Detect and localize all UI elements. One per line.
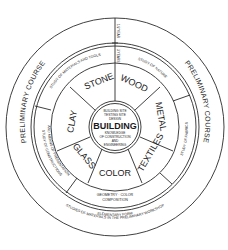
composition-label: COMPOSITION [102, 198, 128, 202]
material-wood: WOOD [119, 73, 150, 95]
material-metal: METAL [153, 101, 168, 132]
material-textiles: TEXTILES [135, 132, 165, 174]
material-stone: STONE [83, 71, 115, 92]
three-years-label: 3 YEARS [116, 49, 120, 62]
study-fabrics-label: STUDY OF FABRICS [180, 121, 189, 156]
geometry-color-label: GEOMETRY · COLOR [97, 193, 134, 197]
study-nature-label: STUDY OF NATURE [137, 57, 168, 79]
core-engineering: ENGINEERING [104, 143, 127, 147]
building-core: BUILDING SITE TESTING SITE DESIGN BUILDI… [93, 109, 137, 147]
material-glass: GLASS [71, 141, 98, 170]
material-clay: CLAY [65, 109, 79, 133]
core-title: BUILDING [93, 121, 137, 131]
material-color: COLOR [99, 168, 132, 178]
half-year-label: 1/2 YEAR [116, 24, 120, 39]
bauhaus-curriculum-diagram: PRELIMINARY COURSE PRELIMINARY COURSE EL… [0, 0, 228, 250]
